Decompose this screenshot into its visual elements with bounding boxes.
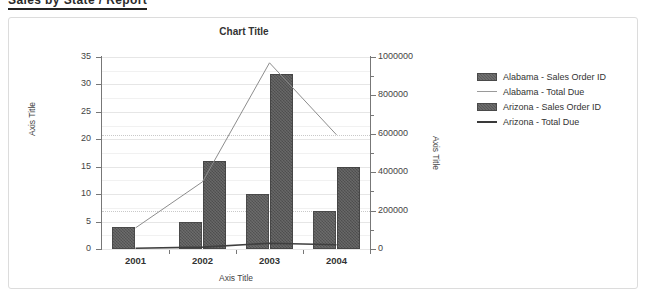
y-axis-left-tick	[96, 222, 101, 223]
y-axis-right-tick	[371, 172, 376, 173]
y-axis-right-tick-minor	[371, 76, 374, 77]
y-axis-left-tick-label: 10	[51, 188, 91, 198]
plot-area	[102, 57, 370, 249]
x-axis-tick	[236, 250, 237, 254]
x-axis-tick-label: 2004	[307, 255, 367, 266]
y-axis-left-tick-label: 20	[51, 133, 91, 143]
y-axis-right-tick	[371, 95, 376, 96]
y-axis-right-tick-label: 800000	[378, 89, 438, 99]
y-axis-left-tick-label: 30	[51, 78, 91, 88]
chart-legend: Alabama - Sales Order IDAlabama - Total …	[477, 70, 637, 130]
legend-item-label: Alabama - Total Due	[503, 87, 584, 97]
legend-item[interactable]: Alabama - Sales Order ID	[477, 70, 637, 83]
y-axis-left-tick-label: 35	[51, 51, 91, 61]
x-axis-tick	[169, 250, 170, 254]
legend-line-swatch-icon	[477, 88, 497, 96]
y-axis-right-tick-minor	[371, 191, 374, 192]
y-axis-left-tick	[96, 84, 101, 85]
x-axis-tick-label: 2001	[106, 255, 166, 266]
y-axis-left-tick-label: 0	[51, 243, 91, 253]
line-series-group	[102, 57, 370, 249]
document-header-text: Sales by State / Report	[8, 0, 147, 10]
y-axis-right-tick-label: 1000000	[378, 51, 438, 61]
x-axis-tick	[303, 250, 304, 254]
line-series	[136, 63, 337, 228]
chart-container: Chart Title Axis Title Axis Title Axis T…	[8, 17, 638, 289]
gridline-major	[102, 249, 370, 250]
y-axis-left-tick	[96, 194, 101, 195]
y-axis-right-tick-label: 600000	[378, 128, 438, 138]
y-axis-left-tick	[96, 167, 101, 168]
y-axis-right-tick-label: 0	[378, 243, 438, 253]
legend-item-label: Arizona - Sales Order ID	[503, 102, 601, 112]
legend-item[interactable]: Alabama - Total Due	[477, 85, 637, 98]
document-header-strip: Sales by State / Report	[0, 0, 654, 13]
x-axis-tick	[370, 250, 371, 254]
chart-title: Chart Title	[9, 26, 479, 37]
legend-bar-swatch-icon	[477, 73, 497, 81]
y-axis-left-tick-label: 15	[51, 161, 91, 171]
y-axis-left-tick	[96, 249, 101, 250]
x-axis-tick-label: 2002	[173, 255, 233, 266]
y-axis-right-tick	[371, 249, 376, 250]
y-axis-left-tick	[96, 112, 101, 113]
y-axis-left-tick	[96, 57, 101, 58]
y-axis-title-left: Axis Title	[27, 102, 37, 136]
y-axis-right-tick-minor	[371, 153, 374, 154]
y-axis-right-tick-minor	[371, 115, 374, 116]
x-axis-title: Axis Title	[146, 273, 326, 283]
legend-item[interactable]: Arizona - Total Due	[477, 115, 637, 128]
legend-bar-swatch-icon	[477, 103, 497, 111]
legend-item-label: Arizona - Total Due	[503, 117, 579, 127]
y-axis-left-tick	[96, 139, 101, 140]
x-axis-tick-label: 2003	[240, 255, 300, 266]
y-axis-right-tick-label: 200000	[378, 205, 438, 215]
legend-item[interactable]: Arizona - Sales Order ID	[477, 100, 637, 113]
legend-item-label: Alabama - Sales Order ID	[503, 72, 606, 82]
y-axis-left-tick-label: 25	[51, 106, 91, 116]
y-axis-right-tick-label: 400000	[378, 166, 438, 176]
y-axis-right-tick	[371, 57, 376, 58]
y-axis-right-tick-minor	[371, 230, 374, 231]
line-series	[136, 243, 337, 248]
legend-line-swatch-icon	[477, 118, 497, 126]
y-axis-title-right: Axis Title	[431, 136, 441, 170]
y-axis-left-tick-label: 5	[51, 216, 91, 226]
y-axis-right-tick	[371, 134, 376, 135]
y-axis-right-tick	[371, 211, 376, 212]
